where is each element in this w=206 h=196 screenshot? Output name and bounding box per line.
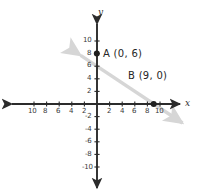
point-label-b: B (9, 0) — [128, 71, 167, 81]
point-marker-a — [94, 51, 100, 57]
y-tick-label-4: 4 — [87, 75, 91, 82]
x-tick-label-8: 8 — [145, 108, 149, 115]
y-tick-label-2: 2 — [87, 88, 91, 95]
y-tick-label-8: 8 — [87, 50, 91, 57]
plot-canvas — [0, 0, 206, 196]
y-tick-label-neg-6: -6 — [85, 138, 92, 145]
x-tick-label-6: 6 — [132, 108, 136, 115]
x-tick-label-neg-6: 6 — [56, 108, 60, 115]
x-tick-label-neg-4: 4 — [69, 108, 73, 115]
x-tick-label-4: 4 — [120, 108, 124, 115]
y-axis-label: y — [98, 8, 103, 17]
y-tick-label-neg-4: -4 — [85, 126, 92, 133]
y-tick-label-neg-8: -8 — [85, 151, 92, 158]
coordinate-plane-diagram: 10 8 6 4 2 2 4 6 8 10 10 8 6 4 2 -2 -4 -… — [0, 0, 206, 196]
y-tick-label-neg-10: -10 — [82, 164, 93, 171]
x-tick-label-neg-10: 10 — [28, 108, 37, 115]
point-label-a: A (0, 6) — [103, 49, 142, 59]
x-tick-label-2: 2 — [107, 108, 111, 115]
x-axis-label: x — [185, 99, 190, 108]
x-tick-label-10: 10 — [155, 108, 164, 115]
y-tick-label-neg-2: -2 — [85, 113, 92, 120]
y-tick-label-10: 10 — [83, 37, 92, 44]
y-tick-label-6: 6 — [87, 62, 91, 69]
x-tick-label-neg-8: 8 — [43, 108, 47, 115]
